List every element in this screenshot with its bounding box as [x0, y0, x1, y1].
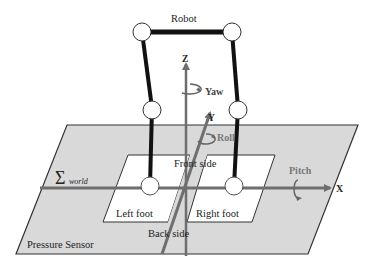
- world-subscript: world: [69, 177, 89, 186]
- pressure-sensor-label: Pressure Sensor: [27, 239, 94, 250]
- joint-mid-left: [143, 101, 161, 119]
- z-axis-label: Z: [182, 54, 188, 64]
- left-foot-label: Left foot: [116, 208, 153, 219]
- pitch-label: Pitch: [289, 165, 312, 176]
- robot-right-upper-link: [232, 32, 238, 108]
- y-axis-label: Y: [208, 113, 215, 123]
- right-foot-label: Right foot: [196, 208, 239, 219]
- roll-label: Roll: [217, 132, 235, 143]
- yaw-label: Yaw: [205, 86, 224, 97]
- robot-label: Robot: [171, 13, 197, 24]
- joint-top-right: [223, 23, 241, 41]
- joint-top-left: [133, 23, 151, 41]
- joint-right-ankle: [225, 177, 243, 195]
- sigma-symbol: Σ: [55, 168, 65, 188]
- x-axis-label: X: [336, 183, 344, 194]
- front-side-label: Front side: [174, 158, 217, 169]
- robot-foot-diagram: Robot Z Yaw Y Roll Front side Pitch X Σ …: [0, 0, 373, 271]
- joint-left-ankle: [141, 177, 159, 195]
- back-side-label: Back side: [148, 228, 189, 239]
- robot-left-upper-link: [142, 32, 152, 108]
- joint-mid-right: [229, 101, 247, 119]
- robot-left-lower-link: [150, 108, 152, 186]
